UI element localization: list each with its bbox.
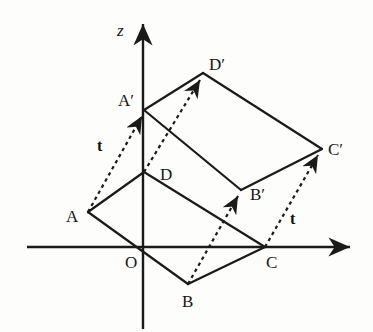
- vertex-label-C-prime: C′: [328, 140, 343, 159]
- z-axis-label: z: [116, 21, 124, 40]
- vertex-label-D-prime: D′: [209, 55, 225, 74]
- edge-Ap-Dp: [144, 73, 203, 110]
- vertex-label-B: B: [182, 292, 193, 311]
- vertex-label-A: A: [66, 207, 79, 226]
- vertex-label-B-prime: B′: [250, 185, 265, 204]
- translation-vector-A-to-Ap: [88, 116, 142, 212]
- vertex-labels-group: A B C D A′ B′ C′ D′: [66, 55, 343, 311]
- origin-label: O: [125, 253, 137, 272]
- vertex-label-A-prime: A′: [118, 91, 134, 110]
- geometry-figure: A B C D A′ B′ C′ D′ z O t t: [0, 0, 373, 332]
- translation-vectors-group: [88, 80, 318, 284]
- vector-label-t-right: t: [290, 210, 296, 227]
- vertex-label-C: C: [266, 253, 277, 272]
- vector-label-t-left: t: [97, 137, 103, 154]
- vertex-label-D: D: [160, 165, 172, 184]
- edge-Dp-Cp: [203, 73, 322, 149]
- figure-canvas: A B C D A′ B′ C′ D′ z O t t: [0, 0, 373, 332]
- edge-Cp-Bp: [241, 149, 322, 190]
- edge-A-D: [88, 172, 144, 212]
- edge-Bp-Ap: [144, 110, 241, 190]
- translation-vector-C-to-Cp: [265, 155, 318, 247]
- translation-vector-D-to-Dp: [144, 80, 200, 172]
- vector-labels-group: t t: [97, 137, 296, 227]
